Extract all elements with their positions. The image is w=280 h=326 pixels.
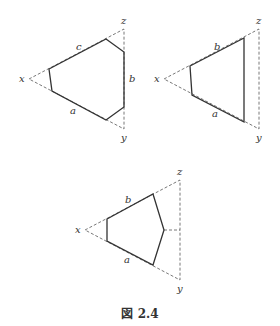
side-label-b: b (125, 194, 131, 205)
side-label-a: a (70, 105, 76, 116)
side-label-b: b (129, 73, 135, 84)
vertex-label-z: z (120, 15, 127, 26)
vertex-label-z: z (255, 15, 262, 26)
side-label-a: a (124, 254, 130, 265)
diagram-canvas: xzycbaxzybaxzyba (0, 0, 280, 326)
figure-caption: 図 2.4 (0, 304, 280, 321)
vertex-label-x: x (75, 224, 81, 235)
vertex-label-x: x (19, 73, 25, 84)
panel-hexagon: xzycba (19, 15, 135, 143)
vertex-label-z: z (176, 166, 183, 177)
vertex-label-x: x (154, 73, 160, 84)
vertex-label-y: y (120, 132, 127, 143)
side-label-a: a (212, 108, 218, 119)
side-label-b: b (214, 41, 220, 52)
vertex-label-y: y (176, 283, 183, 294)
solid-polygon (49, 39, 124, 120)
side-label-c: c (76, 41, 82, 52)
panel-quadrilateral: xzyba (154, 15, 262, 143)
panel-pentagon: xzyba (75, 166, 183, 294)
solid-polygon (107, 194, 164, 265)
vertex-label-y: y (255, 132, 262, 143)
